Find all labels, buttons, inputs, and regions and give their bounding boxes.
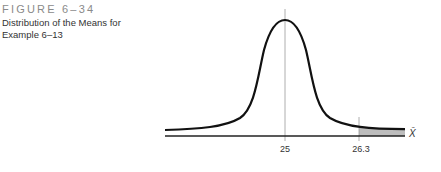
tick-label-mean: 25 — [280, 144, 290, 154]
tick-label-critical: 26.3 — [352, 144, 370, 154]
x-bar-axis-label: X̄ — [408, 127, 416, 139]
normal-distribution-chart: 25 26.3 X̄ — [0, 0, 441, 172]
